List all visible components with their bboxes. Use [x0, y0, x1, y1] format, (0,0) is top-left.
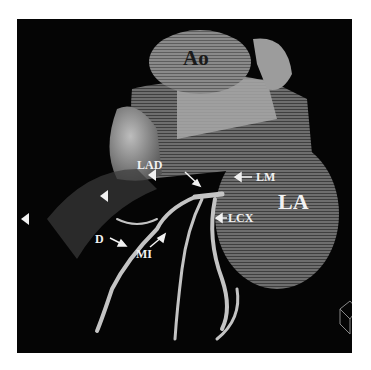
label-diagonal: D: [95, 232, 104, 247]
label-lad: LAD: [137, 158, 162, 173]
arrowhead-3: [21, 213, 29, 225]
label-lm: LM: [256, 170, 275, 185]
label-left-atrium: LA: [278, 189, 309, 215]
label-intermediate: MI: [136, 247, 152, 262]
label-aorta: Ao: [183, 46, 209, 71]
orientation-cube-icon: [340, 301, 352, 334]
label-lcx: LCX: [228, 211, 253, 226]
ct-image: Ao LA LAD LM LCX D MI: [17, 19, 352, 353]
